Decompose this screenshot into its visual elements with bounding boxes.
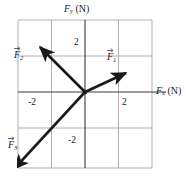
vector-label-f3-symbol: F	[8, 139, 14, 150]
vector-label-f3-subscript: 3	[14, 144, 17, 151]
x-axis-title-unit: (N)	[168, 85, 182, 96]
tick-label-x-negative: -2	[28, 98, 36, 108]
vector-label-f2-subscript: 2	[20, 54, 23, 61]
x-axis-title: Fx (N)	[156, 86, 181, 97]
vector-f2	[40, 47, 85, 92]
y-axis-title: Fy (N)	[64, 4, 89, 15]
y-axis-title-unit: (N)	[76, 3, 90, 14]
tick-label-y-negative: -2	[68, 136, 76, 146]
vector-label-f2-symbol: F	[14, 49, 20, 60]
vector-label-f2: F2	[14, 50, 23, 61]
vector-f3	[14, 92, 85, 169]
axis-lines	[18, 20, 166, 168]
force-vectors	[14, 47, 126, 169]
y-axis-title-subscript: y	[70, 7, 73, 14]
vector-label-f1: F1	[107, 52, 116, 63]
tick-label-x-positive: 2	[122, 98, 127, 108]
force-vector-diagram: Fy (N) Fx (N) 2 -2 2 -2 F1 F2 F3	[0, 0, 186, 176]
vector-label-f1-symbol: F	[107, 51, 113, 62]
origin-point	[83, 90, 87, 94]
vector-label-f3: F3	[8, 140, 17, 151]
vector-f1	[85, 73, 126, 92]
x-axis-title-subscript: x	[162, 89, 165, 96]
vector-label-f1-subscript: 1	[113, 56, 116, 63]
tick-label-y-positive: 2	[74, 38, 79, 48]
